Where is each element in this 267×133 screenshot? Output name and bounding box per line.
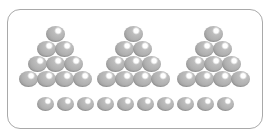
marble	[195, 41, 214, 57]
marble	[133, 71, 152, 87]
marble	[133, 41, 152, 57]
marble	[46, 26, 65, 42]
marble	[37, 71, 56, 87]
marble	[124, 26, 143, 42]
marble	[222, 56, 241, 72]
marble	[124, 56, 143, 72]
marble	[204, 56, 223, 72]
marble	[64, 56, 83, 72]
marble	[28, 56, 47, 72]
marble	[151, 71, 170, 87]
marble	[77, 97, 94, 111]
marble	[213, 41, 232, 57]
marble	[115, 71, 134, 87]
marble	[177, 71, 196, 87]
marble	[37, 97, 54, 111]
marble	[157, 97, 174, 111]
marble	[197, 97, 214, 111]
marble	[55, 41, 74, 57]
marble	[142, 56, 161, 72]
marble-picture	[0, 0, 267, 133]
marble	[195, 71, 214, 87]
marble	[46, 56, 65, 72]
marble	[97, 97, 114, 111]
marble	[204, 26, 223, 42]
marble	[115, 41, 134, 57]
marble	[37, 41, 56, 57]
marble	[73, 71, 92, 87]
marble	[106, 56, 125, 72]
marble	[186, 56, 205, 72]
marble	[137, 97, 154, 111]
marble	[213, 71, 232, 87]
marble	[231, 71, 250, 87]
marble-layer	[0, 0, 267, 133]
marble	[55, 71, 74, 87]
marble	[117, 97, 134, 111]
marble	[177, 97, 194, 111]
marble	[19, 71, 38, 87]
marble	[57, 97, 74, 111]
marble	[217, 97, 234, 111]
marble	[97, 71, 116, 87]
